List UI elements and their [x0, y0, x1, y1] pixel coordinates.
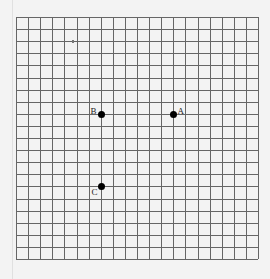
point-label-a: A [178, 107, 185, 116]
point-label-b: B [91, 107, 97, 116]
point-a [170, 111, 177, 118]
grid-lines [16, 17, 259, 260]
point-label-c: C [92, 188, 98, 197]
stray-mark [72, 40, 74, 43]
point-c [98, 183, 105, 190]
coordinate-grid [0, 0, 270, 279]
point-b [98, 111, 105, 118]
